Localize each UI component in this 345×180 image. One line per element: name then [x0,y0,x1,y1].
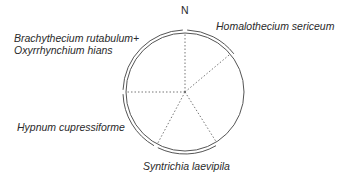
radius-southsoutheast [185,92,216,142]
north-label: N [181,4,189,16]
label-hypnum-cupressiforme: Hypnum cupressiforme [17,121,125,133]
species-arcs [123,30,234,154]
species-arc [123,94,154,146]
label-brachythecium-rutabulum: Brachythecium rutabulum+ [14,32,139,44]
radius-northeast [185,54,230,92]
label-syntrichia-laevipila: Syntrichia laevipila [143,160,230,172]
label-homalothecium-sericeum: Homalothecium sericeum [216,20,334,32]
radius-southsouthwest [157,92,185,144]
label-oxyrrhynchium-hians: Oxyrrhynchium hians [14,44,113,56]
sector-dividers [126,33,230,144]
